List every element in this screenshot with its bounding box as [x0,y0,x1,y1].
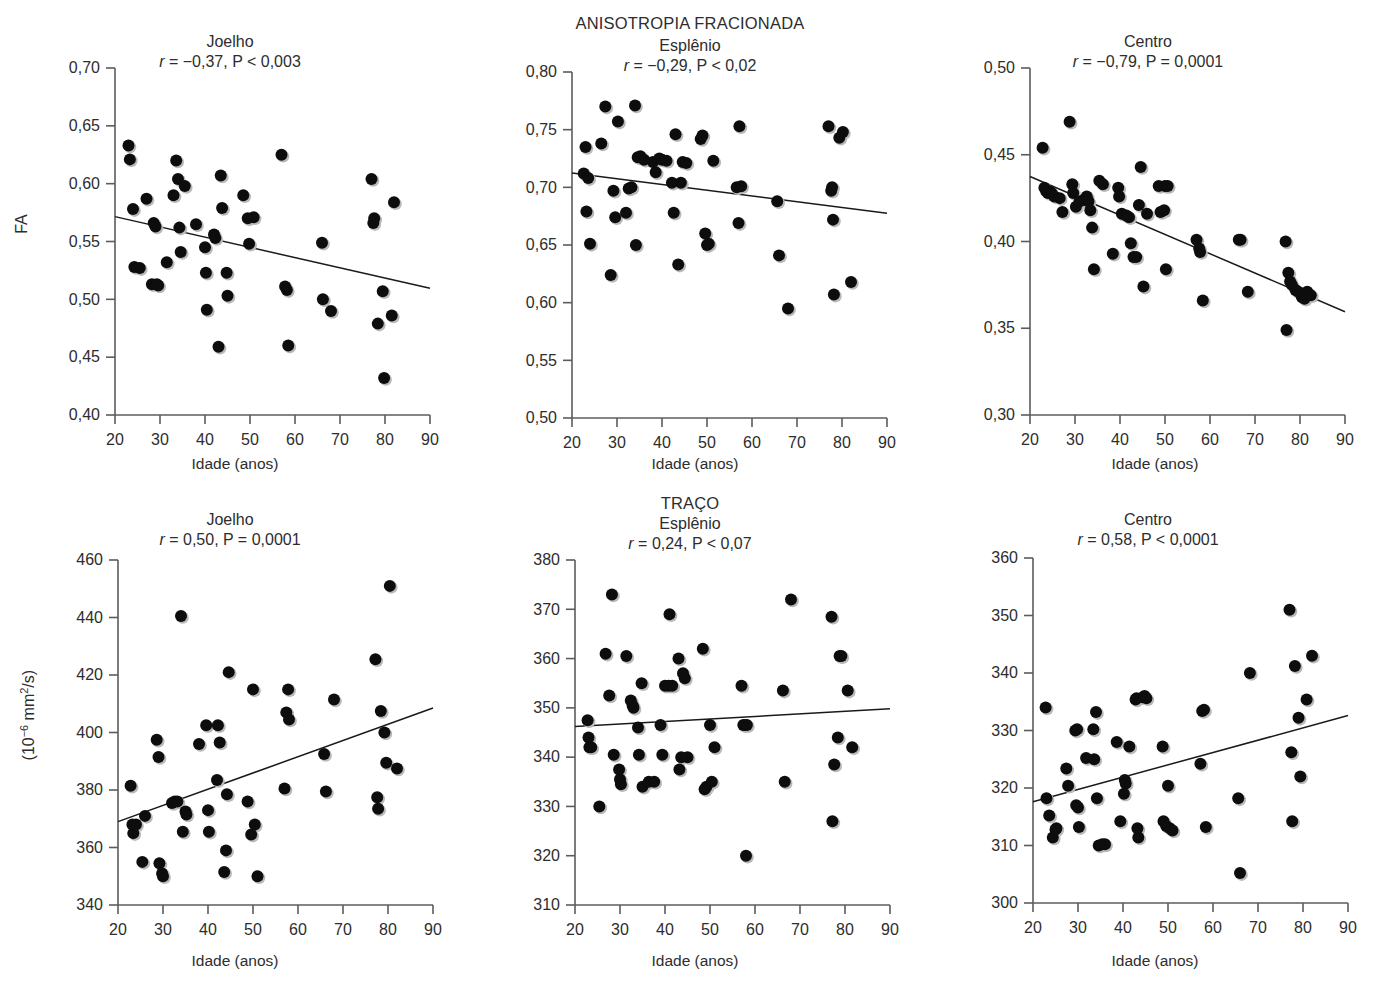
data-point [1141,208,1153,220]
data-point [1056,206,1068,218]
data-point [682,751,694,763]
data-point [1060,762,1072,774]
data-point [697,129,709,141]
x-tick-label: 20 [563,434,581,451]
data-point [655,719,667,731]
data-point [672,259,684,271]
data-point [668,207,680,219]
data-point [279,783,291,795]
plot-area: 0,400,450,500,550,600,650,70203040506070… [0,0,460,490]
data-point [620,650,632,662]
x-tick-label: 30 [608,434,626,451]
data-point [741,719,753,731]
data-point [372,318,384,330]
data-point [736,680,748,692]
x-tick-label: 20 [106,431,124,448]
data-point [171,796,183,808]
data-point [1305,289,1317,301]
data-point [707,155,719,167]
panel-traco-esplenio: TRAÇO Esplênio r = 0,24, P < 0,07 310320… [460,490,920,987]
y-tick-label: 0,40 [984,233,1015,250]
data-point [733,120,745,132]
data-point [209,232,221,244]
data-point [136,856,148,868]
data-point [328,693,340,705]
x-tick-label: 40 [1114,919,1132,936]
data-point [1120,777,1132,789]
data-point [317,293,329,305]
data-point [221,267,233,279]
data-point [603,690,615,702]
x-axis-title: Idade (anos) [40,455,430,473]
data-point [845,276,857,288]
data-point [826,815,838,827]
data-point [378,372,390,384]
data-point [369,653,381,665]
y-tick-label: 380 [76,781,103,798]
data-point [151,734,163,746]
y-tick-label: 340 [533,748,560,765]
y-tick-label: 420 [76,666,103,683]
x-axis-title: Idade (anos) [40,952,430,970]
x-tick-label: 90 [1336,431,1354,448]
data-point [648,776,660,788]
data-point [1084,204,1096,216]
y-tick-label: 0,55 [526,352,557,369]
x-tick-label: 70 [331,431,349,448]
data-point [211,774,223,786]
panel-traco-joelho: Joelho r = 0,50, P = 0,0001 340360380400… [0,490,460,987]
data-point [384,580,396,592]
data-point [223,666,235,678]
data-point [1234,867,1246,879]
figure-grid: Joelho r = −0,37, P < 0,003 0,400,450,50… [0,0,1376,987]
data-point [1037,142,1049,154]
data-point [1137,281,1149,293]
data-point [777,685,789,697]
y-tick-label: 310 [991,837,1018,854]
x-tick-label: 70 [791,921,809,938]
data-point [276,149,288,161]
data-point [842,685,854,697]
x-tick-label: 50 [244,921,262,938]
data-point [600,648,612,660]
y-tick-label: 0,70 [69,59,100,76]
data-point [375,705,387,717]
x-tick-label: 20 [566,921,584,938]
plot-area: 3003103203303403503602030405060708090 [920,490,1376,987]
data-point [175,610,187,622]
data-point [237,189,249,201]
data-points [1037,116,1319,338]
data-point [1285,746,1297,758]
data-point [1235,234,1247,246]
data-point [771,195,783,207]
data-point [609,211,621,223]
x-tick-label: 20 [109,921,127,938]
data-point [1194,246,1206,258]
y-tick-label: 370 [533,601,560,618]
data-point [615,778,627,790]
x-tick-label: 80 [1294,919,1312,936]
plot-area: 0,500,550,600,650,700,750,80203040506070… [460,0,920,490]
data-point [201,304,213,316]
data-point [1088,753,1100,765]
data-point [221,788,233,800]
y-tick-label: 360 [76,839,103,856]
data-point [1194,758,1206,770]
data-point [656,749,668,761]
data-point [130,819,142,831]
data-point [153,751,165,763]
data-point [835,650,847,662]
x-tick-label: 30 [154,921,172,938]
data-point [220,844,232,856]
data-point [249,819,261,831]
data-point [675,177,687,189]
data-point [1167,825,1179,837]
data-points [123,139,402,385]
data-point [673,653,685,665]
y-tick-label: 0,30 [984,406,1015,423]
data-point [213,341,225,353]
data-point [826,611,838,623]
data-point [697,643,709,655]
data-point [1232,792,1244,804]
y-tick-label: 440 [76,609,103,626]
